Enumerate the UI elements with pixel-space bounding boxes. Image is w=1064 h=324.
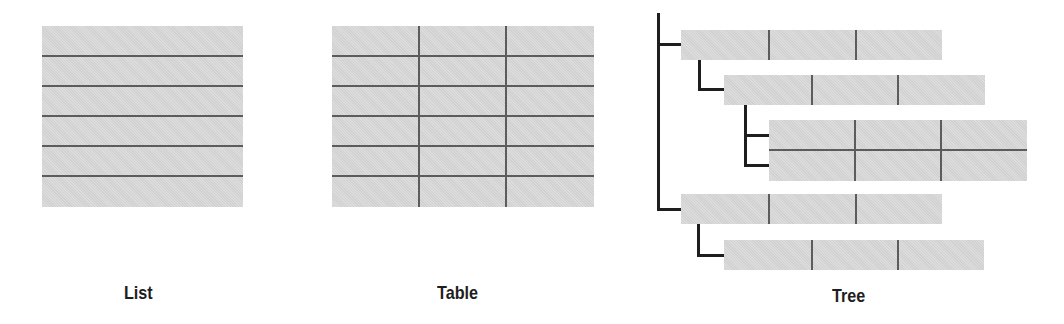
table-row-divider [332,175,594,177]
table-row-divider [332,145,594,147]
tree-node-column-divider [855,194,857,224]
table-row-divider [332,85,594,87]
list-row-divider [42,55,243,57]
tree-node-column-divider [897,240,899,270]
table-column-divider [505,26,507,207]
tree-node[interactable] [681,194,942,224]
tree-branch-connector [697,224,700,257]
tree-branch-connector [698,60,701,91]
table-column-divider [418,26,420,207]
tree-node-column-divider [811,240,813,270]
table-panel [332,26,594,207]
tree-branch-connector [744,134,769,137]
tree-node[interactable] [681,30,942,60]
tree-node-row-divider [769,149,1027,151]
list-row-divider [42,115,243,117]
tree-node-column-divider [940,120,942,181]
tree-node-column-divider [855,30,857,60]
tree-branch-connector [697,254,724,257]
tree-node-column-divider [854,120,856,181]
tree-branch-connector [657,43,681,46]
tree-node-column-divider [811,75,813,105]
list-row-divider [42,145,243,147]
tree-node[interactable] [769,120,1027,181]
tree-node-column-divider [768,194,770,224]
tree-node[interactable] [724,75,985,105]
tree-node[interactable] [724,240,984,270]
tree-node-column-divider [897,75,899,105]
list-panel [42,26,243,207]
list-row-divider [42,85,243,87]
tree-label: Tree [832,285,865,307]
table-row-divider [332,55,594,57]
tree-branch-connector [657,208,681,211]
table-label: Table [437,282,478,304]
list-label: List [124,282,153,304]
tree-branch-connector [698,88,724,91]
tree-branch-connector [744,164,769,167]
table-row-divider [332,115,594,117]
list-row-divider [42,175,243,177]
tree-node-column-divider [768,30,770,60]
